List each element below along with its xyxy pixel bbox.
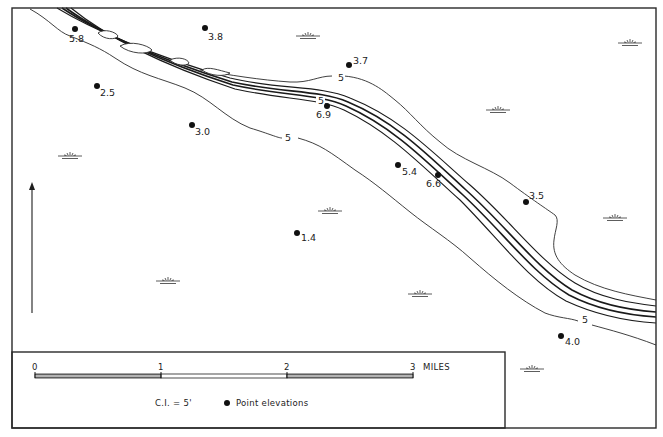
elevation-label: 2.5 xyxy=(100,87,115,98)
elevation-point-icon xyxy=(346,62,352,68)
elevation-label: 6.9 xyxy=(316,109,331,120)
contour-interval-label: C.I. = 5' xyxy=(155,398,192,408)
elevation-label: 3.7 xyxy=(353,55,368,66)
scale-tick-label: 0 xyxy=(32,362,38,372)
elevation-label: 1.4 xyxy=(301,232,316,243)
elevation-label: 5.8 xyxy=(69,33,84,44)
elevation-label: 3.0 xyxy=(195,126,210,137)
topographic-map: 5555 5.83.82.53.03.76.95.46.61.43.54.0 0… xyxy=(0,0,663,437)
contour-label: 5 xyxy=(285,132,291,143)
contour-label: 5 xyxy=(582,314,588,325)
point-elevations-legend-label: Point elevations xyxy=(236,398,309,408)
point-elevation-legend-icon xyxy=(224,400,230,406)
elevation-label: 3.8 xyxy=(208,31,223,42)
elevation-point-icon xyxy=(395,162,401,168)
scale-bar-segment xyxy=(161,374,287,378)
elevation-point-icon xyxy=(558,333,564,339)
map-background xyxy=(0,0,663,437)
scale-tick-label: 1 xyxy=(158,362,164,372)
elevation-label: 6.6 xyxy=(426,178,441,189)
elevation-point-icon xyxy=(72,26,78,32)
elevation-point-icon xyxy=(294,230,300,236)
contour-label: 5 xyxy=(338,72,344,83)
elevation-label: 5.4 xyxy=(402,166,417,177)
elevation-label: 3.5 xyxy=(529,190,544,201)
scale-tick-label: 2 xyxy=(284,362,290,372)
scale-unit-label: MILES xyxy=(423,362,450,372)
elevation-label: 4.0 xyxy=(565,336,580,347)
contour-label: 5 xyxy=(318,95,324,106)
scale-tick-label: 3 xyxy=(410,362,416,372)
